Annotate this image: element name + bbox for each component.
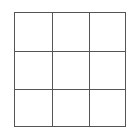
grid-cell-r3-c1 [15,90,53,126]
grid-cell-r1-c2 [53,13,90,52]
grid-cell-r1-c1 [15,13,53,52]
grid-cell-r1-c3 [90,13,125,52]
grid-3x3 [14,12,126,127]
grid-cell-r3-c2 [53,90,90,126]
grid-cell-r2-c2 [53,52,90,90]
grid-cell-r3-c3 [90,90,125,126]
grid-cell-r2-c3 [90,52,125,90]
grid-cell-r2-c1 [15,52,53,90]
